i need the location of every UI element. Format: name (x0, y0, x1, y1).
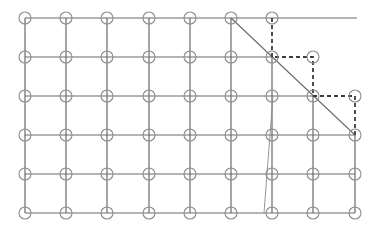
diagonal-line-segment (231, 18, 355, 135)
diagonal-line (231, 18, 355, 135)
grid-diagram (0, 0, 378, 234)
grid-lines (25, 18, 357, 213)
